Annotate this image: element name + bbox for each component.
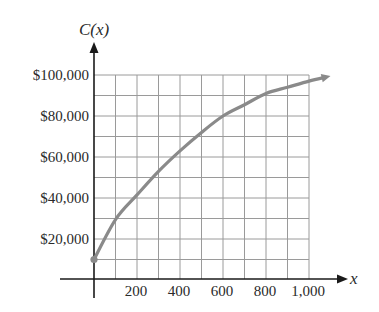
data-series <box>90 74 330 263</box>
chart-svg: C(x) x $20,000$40,000$60,000$80,000$100,… <box>0 0 379 312</box>
y-axis-arrow-icon <box>90 42 99 53</box>
y-tick-label: $60,000 <box>40 149 89 165</box>
x-tick-label: 200 <box>125 283 148 299</box>
labels: C(x) x <box>79 20 358 288</box>
y-tick-labels: $20,000$40,000$60,000$80,000$100,000 <box>33 67 89 247</box>
chart: C(x) x $20,000$40,000$60,000$80,000$100,… <box>0 0 379 312</box>
y-tick-label: $40,000 <box>40 190 89 206</box>
y-axis-title: C(x) <box>79 20 110 39</box>
x-tick-label: 1,000 <box>291 283 325 299</box>
cost-curve <box>94 77 325 259</box>
x-tick-label: 800 <box>254 283 277 299</box>
x-axis-arrow-icon <box>337 275 348 284</box>
curve-arrow-icon <box>321 74 331 82</box>
x-tick-labels: 2004006008001,000 <box>125 283 325 299</box>
y-tick-label: $20,000 <box>40 231 89 247</box>
start-point-marker <box>90 256 97 263</box>
x-axis-title: x <box>349 269 358 288</box>
grid <box>94 75 309 279</box>
x-tick-label: 600 <box>211 283 234 299</box>
y-tick-label: $80,000 <box>40 108 89 124</box>
x-tick-label: 400 <box>168 283 191 299</box>
y-tick-label: $100,000 <box>33 67 89 83</box>
